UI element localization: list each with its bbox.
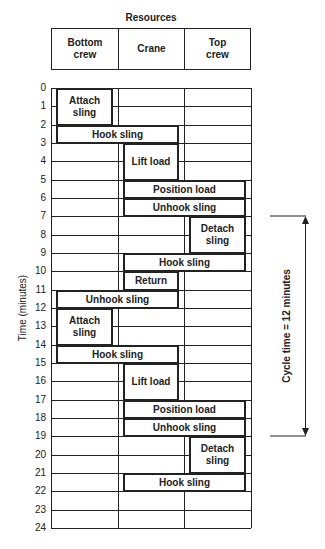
cycle-time-bracket xyxy=(0,0,325,549)
arrow-up-icon xyxy=(302,216,309,224)
arrow-down-icon xyxy=(302,428,309,436)
cycle-time-label: Cycle time = 12 minutes xyxy=(281,269,292,383)
